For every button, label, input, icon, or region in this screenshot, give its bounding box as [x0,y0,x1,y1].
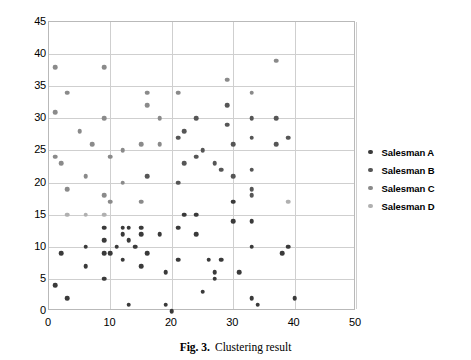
data-point [65,90,70,95]
data-point [102,116,107,121]
data-point [286,200,291,205]
data-point [102,238,107,243]
data-point [249,167,254,172]
data-point [139,225,144,230]
data-point [274,58,279,63]
data-point [163,302,168,307]
gridline-vertical [233,22,234,309]
y-axis-tick-label: 15 [16,208,46,220]
data-point [194,212,199,217]
data-point [53,155,58,160]
data-point [157,142,162,147]
gridline-horizontal [49,86,354,87]
data-point [84,244,89,249]
data-point [163,270,168,275]
x-axis-tick-label: 40 [277,316,311,328]
data-point [176,180,181,185]
data-point [102,277,107,282]
data-point [102,193,107,198]
legend-marker-icon [368,204,373,209]
data-point [139,200,144,205]
y-axis-tick-label: 25 [16,143,46,155]
data-point [274,116,279,121]
data-point [102,251,107,256]
data-point [65,212,70,217]
data-point [249,244,254,249]
x-axis-tick-label: 50 [338,316,372,328]
data-point [145,174,150,179]
gridline-horizontal [49,118,354,119]
gridline-vertical [356,22,357,309]
data-point [84,264,89,269]
gridline-horizontal [49,183,354,184]
gridline-horizontal [49,247,354,248]
data-point [231,142,236,147]
data-point [219,167,224,172]
data-point [249,135,254,140]
data-point [194,116,199,121]
data-point [182,161,187,166]
data-point [90,142,95,147]
y-axis-tick-label: 5 [16,272,46,284]
data-point [145,103,150,108]
data-point [255,302,260,307]
figure-caption: Fig. 3.Clustering result [0,341,471,353]
y-axis-tick-label: 20 [16,176,46,188]
legend-item-label: Salesman B [382,165,435,176]
data-point [237,270,242,275]
data-point [249,296,254,301]
data-point [292,296,297,301]
gridline-horizontal [49,215,354,216]
data-point [145,90,150,95]
x-axis-tick-label: 30 [215,316,249,328]
data-point [108,200,113,205]
data-point [176,90,181,95]
legend-item-label: Salesman C [382,183,435,194]
data-point [102,212,107,217]
data-point [133,244,138,249]
gridline-horizontal [49,54,354,55]
legend-item-label: Salesman D [382,201,435,212]
data-point [120,232,125,237]
data-point [219,257,224,262]
data-point [145,251,150,256]
data-point [249,193,254,198]
legend-item-salesman-d: Salesman D [368,197,468,215]
y-axis-tick-label: 10 [16,240,46,252]
legend-item-salesman-b: Salesman B [368,161,468,179]
data-point [120,225,125,230]
data-point [176,257,181,262]
data-point [249,187,254,192]
data-point [139,142,144,147]
data-point [231,200,236,205]
data-point [139,232,144,237]
data-point [114,244,119,249]
data-point [212,270,217,275]
data-point [225,78,230,83]
data-point [102,225,107,230]
gridline-vertical [295,22,296,309]
data-point [280,251,285,256]
data-point [212,277,217,282]
x-axis-tick-label: 0 [31,316,65,328]
data-point [108,251,113,256]
data-point [53,283,58,288]
data-point [120,257,125,262]
data-point [59,251,64,256]
data-point [182,129,187,134]
data-point [127,302,132,307]
data-point [206,257,211,262]
data-point [157,116,162,121]
data-point [170,309,175,314]
data-point [286,244,291,249]
caption-text: Clustering result [215,341,291,353]
data-point [225,122,230,127]
data-point [84,174,89,179]
data-point [65,296,70,301]
data-point [120,148,125,153]
x-axis-tick-label: 10 [92,316,126,328]
y-axis-tick-label: 0 [16,304,46,316]
gridline-horizontal [49,279,354,280]
data-point [249,219,254,224]
data-point [102,65,107,70]
